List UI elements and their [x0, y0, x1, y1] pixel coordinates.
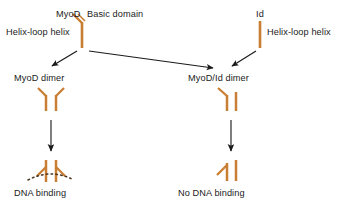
myod-dimer-arm-right: [56, 88, 64, 96]
label-myod-id-dimer: MyoD/Id dimer: [188, 74, 249, 83]
arrow-myod-to-mixed-dimer: [89, 51, 213, 68]
label-id: Id: [256, 10, 264, 19]
label-dna-binding: DNA binding: [14, 189, 66, 198]
label-no-dna-binding: No DNA binding: [178, 189, 245, 198]
dna-binding-complex-glyph: [28, 160, 74, 182]
myod-id-dimer-glyph: [218, 88, 236, 111]
label-myod-dimer: MyoD dimer: [14, 74, 64, 83]
free-complex-arm-left: [217, 165, 227, 175]
mixed-dimer-arm-left: [218, 88, 227, 96]
arrow-myod-to-myod-dimer: [52, 51, 77, 66]
label-helix-loop-helix-right: Helix-loop helix: [267, 28, 331, 37]
myod-dimer-glyph: [38, 88, 64, 111]
label-basic-domain: Basic domain: [87, 10, 143, 19]
arrow-id-to-mixed-dimer: [232, 51, 256, 66]
dna-strand: [28, 174, 74, 180]
diagram-canvas: MyoD Basic domain Helix-loop helix Id He…: [0, 0, 350, 213]
myod-dimer-arm-left: [38, 88, 46, 96]
label-helix-loop-helix-left: Helix-loop helix: [6, 28, 70, 37]
label-myod: MyoD: [56, 10, 80, 19]
no-dna-binding-complex-glyph: [217, 160, 236, 181]
